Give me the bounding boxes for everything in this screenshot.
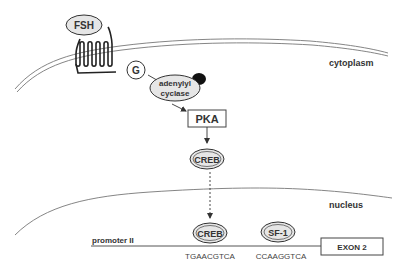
cytoplasm-label: cytoplasm — [329, 58, 374, 68]
sf1-site-sequence: CCAAGGTCA — [256, 252, 307, 261]
creb-cytoplasm-label: CREB — [194, 155, 220, 165]
creb-nucleus-label: CREB — [197, 229, 223, 239]
sf1-label: SF-1 — [268, 228, 288, 238]
nucleus-label: nucleus — [329, 200, 363, 210]
creb-site-sequence: TGAACGTCA — [185, 252, 235, 261]
pka-label: PKA — [195, 113, 218, 125]
creb-cytoplasm-node: CREB — [190, 149, 224, 169]
creb-nucleus-node: CREB — [193, 223, 227, 243]
sf1-node: SF-1 — [261, 222, 295, 242]
pka-node: PKA — [188, 110, 226, 127]
g-protein-label: G — [132, 65, 140, 76]
arrow-ac-to-pka — [172, 104, 186, 111]
promoter-ii-label: promoter II — [92, 236, 134, 245]
adenylyl-label: adenylyl — [159, 79, 191, 88]
fsh-label: FSH — [74, 20, 94, 31]
g-protein-node: G — [127, 61, 145, 79]
exon2-label: EXON 2 — [337, 243, 367, 252]
exon2-node: EXON 2 — [321, 238, 383, 255]
adenylyl-cyclase-node: adenylyl cyclase — [150, 75, 200, 101]
fsh-node: FSH — [66, 15, 102, 35]
fsh-signaling-diagram: FSH G adenylyl cyclase PKA CREB cytoplas… — [0, 0, 397, 271]
cyclase-label: cyclase — [161, 89, 190, 98]
